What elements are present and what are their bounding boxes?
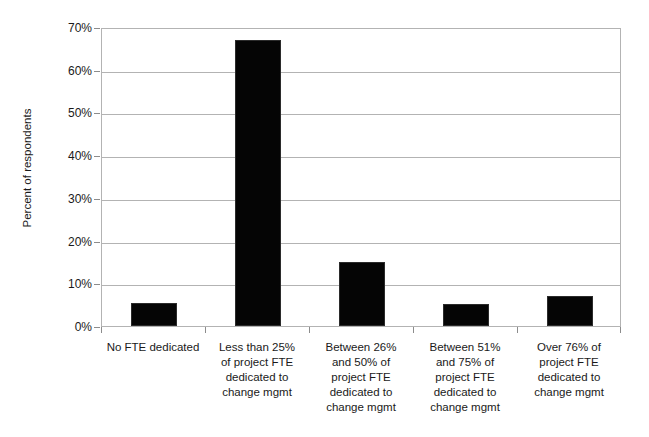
x-axis-category-label-line: of project FTE bbox=[205, 355, 309, 370]
x-axis-category-label-line: change mgmt bbox=[517, 385, 621, 400]
y-axis-tick-label: 10% bbox=[40, 278, 92, 290]
y-axis-tick-label: 50% bbox=[40, 107, 92, 119]
x-axis-category-labels: No FTE dedicatedLess than 25%of project … bbox=[101, 340, 621, 430]
x-axis-tick-mark bbox=[309, 327, 310, 333]
bar-slot bbox=[102, 29, 206, 326]
x-axis-category-label-line: dedicated to bbox=[309, 385, 413, 400]
y-axis-tick-label: 70% bbox=[40, 22, 92, 34]
x-axis-category-label: Over 76% ofproject FTEdedicated tochange… bbox=[517, 340, 621, 400]
y-axis-tick-mark bbox=[94, 113, 100, 114]
y-axis-tick-mark bbox=[94, 284, 100, 285]
x-axis-category-label-line: dedicated to bbox=[517, 370, 621, 385]
bar-slot bbox=[206, 29, 310, 326]
x-axis-tick-mark bbox=[205, 327, 206, 333]
x-axis-category-label-line: Over 76% of bbox=[517, 340, 621, 355]
bar-chart: Percent of respondents 0%10%20%30%40%50%… bbox=[0, 0, 649, 437]
y-axis-tick-label: 0% bbox=[40, 321, 92, 333]
y-axis-tick-mark bbox=[94, 327, 100, 328]
x-axis-category-label-line: dedicated to bbox=[205, 370, 309, 385]
x-axis-tick-mark bbox=[101, 327, 102, 333]
y-axis-tick-label: 40% bbox=[40, 150, 92, 162]
x-axis-category-label-line: project FTE bbox=[413, 370, 517, 385]
x-axis-category-label-line: and 50% of bbox=[309, 355, 413, 370]
y-axis-tick-labels: 0%10%20%30%40%50%60%70% bbox=[40, 0, 92, 437]
x-axis-category-label: Between 51%and 75% ofproject FTEdedicate… bbox=[413, 340, 517, 415]
bar[interactable] bbox=[443, 304, 489, 326]
y-axis-title: Percent of respondents bbox=[16, 18, 38, 318]
x-axis-tick-mark bbox=[517, 327, 518, 333]
x-axis-category-label-line: No FTE dedicated bbox=[101, 340, 205, 355]
x-axis-category-label: Between 26%and 50% ofproject FTEdedicate… bbox=[309, 340, 413, 415]
x-axis-category-label-line: Between 51% bbox=[413, 340, 517, 355]
y-axis-tick-label: 30% bbox=[40, 193, 92, 205]
bar[interactable] bbox=[131, 303, 177, 326]
x-axis-category-label: Less than 25%of project FTEdedicated toc… bbox=[205, 340, 309, 400]
x-axis-category-label-line: project FTE bbox=[309, 370, 413, 385]
y-axis-tick-label: 60% bbox=[40, 65, 92, 77]
plot-area bbox=[101, 28, 621, 327]
y-axis-tick-mark bbox=[94, 242, 100, 243]
x-axis-category-label-line: and 75% of bbox=[413, 355, 517, 370]
bar[interactable] bbox=[235, 40, 281, 326]
bar-slot bbox=[518, 29, 622, 326]
bar-slot bbox=[310, 29, 414, 326]
x-axis-tick-mark bbox=[620, 327, 621, 333]
x-axis-tick-mark bbox=[413, 327, 414, 333]
bar[interactable] bbox=[339, 262, 385, 326]
x-axis-category-label-line: change mgmt bbox=[309, 400, 413, 415]
bar[interactable] bbox=[547, 296, 593, 326]
x-axis-category-label-line: change mgmt bbox=[413, 400, 517, 415]
x-axis-category-label-line: Less than 25% bbox=[205, 340, 309, 355]
y-axis-tick-mark bbox=[94, 71, 100, 72]
x-axis-category-label-line: change mgmt bbox=[205, 385, 309, 400]
x-axis-category-label-line: dedicated to bbox=[413, 385, 517, 400]
x-axis-category-label-line: Between 26% bbox=[309, 340, 413, 355]
bar-slot bbox=[414, 29, 518, 326]
x-axis-category-label: No FTE dedicated bbox=[101, 340, 205, 355]
y-axis-tick-label: 20% bbox=[40, 236, 92, 248]
y-axis-tick-mark bbox=[94, 28, 100, 29]
x-axis-tick-marks bbox=[101, 327, 621, 335]
y-axis-tick-mark bbox=[94, 156, 100, 157]
y-axis-tick-mark bbox=[94, 199, 100, 200]
x-axis-category-label-line: project FTE bbox=[517, 355, 621, 370]
